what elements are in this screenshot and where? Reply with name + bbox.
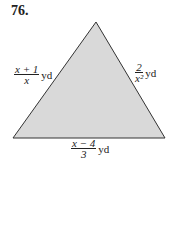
bottom-denominator: 3 (81, 149, 87, 159)
bottom-fraction: x − 4 3 (71, 138, 96, 159)
left-side-label: x + 1 x yd (14, 64, 52, 85)
bottom-unit: yd (98, 143, 109, 155)
right-side-label: 2 x² yd (135, 62, 156, 83)
left-denominator: x (24, 75, 29, 85)
left-unit: yd (41, 69, 52, 81)
right-fraction: 2 x² (135, 62, 143, 83)
right-unit: yd (145, 67, 156, 79)
right-denominator: x² (135, 73, 143, 83)
bottom-side-label: x − 4 3 yd (71, 138, 109, 159)
left-fraction: x + 1 x (14, 64, 39, 85)
